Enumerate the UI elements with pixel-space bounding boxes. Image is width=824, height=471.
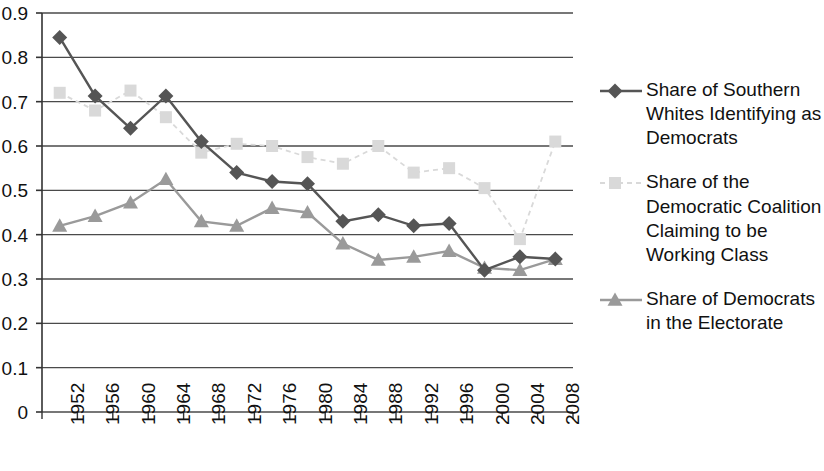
x-tick-label: 1992 — [422, 383, 441, 425]
triangle-data-point — [158, 172, 173, 185]
line-chart: 0.90.80.70.60.50.40.30.20.10 19521956196… — [0, 0, 824, 471]
square-data-point — [302, 151, 314, 163]
diamond-data-point — [371, 207, 386, 222]
x-tick-label: 1968 — [209, 383, 228, 425]
y-tick-label: 0.2 — [0, 314, 28, 333]
x-tick-label: 1956 — [103, 383, 122, 425]
y-tick-label: 0.4 — [0, 226, 28, 245]
square-data-point — [372, 140, 384, 152]
x-tick-label: 1984 — [351, 383, 370, 425]
x-tick-label: 1964 — [174, 383, 193, 425]
x-tick-label: 1996 — [457, 383, 476, 425]
x-tick-label: 2000 — [493, 383, 512, 425]
triangle-data-point — [442, 244, 457, 257]
square-data-point — [609, 177, 621, 189]
diamond-data-point — [406, 218, 421, 233]
square-data-point — [54, 87, 66, 99]
diamond-data-point — [608, 84, 623, 99]
square-data-point — [408, 167, 420, 179]
y-tick-label: 0.8 — [0, 48, 28, 67]
x-tick-label: 1952 — [68, 383, 87, 425]
diamond-marker-key — [598, 78, 644, 104]
triangle-data-point — [265, 201, 280, 214]
x-tick-label: 1980 — [316, 383, 335, 425]
square-data-point — [443, 162, 455, 174]
y-tick-label: 0.1 — [0, 359, 28, 378]
y-tick-label: 0.9 — [0, 4, 28, 23]
legend-entry: Share of Democrats in the Electorate — [598, 287, 824, 335]
chart-legend: Share of Southern Whites Identifying as … — [598, 78, 824, 355]
square-data-point — [231, 138, 243, 150]
legend-entry: Share of Southern Whites Identifying as … — [598, 78, 824, 150]
legend-label: Share of Southern Whites Identifying as … — [644, 78, 824, 150]
x-tick-label: 1960 — [139, 383, 158, 425]
triangle-marker-key — [598, 287, 644, 313]
square-data-point — [266, 140, 278, 152]
legend-label: Share of Democrats in the Electorate — [644, 287, 824, 335]
x-tick-label: 2004 — [528, 383, 547, 425]
y-tick-label: 0.6 — [0, 137, 28, 156]
x-tick-label: 1988 — [386, 383, 405, 425]
square-data-point — [514, 233, 526, 245]
y-tick-label: 0 — [0, 403, 28, 422]
square-data-point — [125, 85, 137, 97]
y-tick-label: 0.5 — [0, 181, 28, 200]
legend-label: Share of the Democratic Coalition Claimi… — [644, 170, 824, 267]
diamond-data-point — [265, 174, 280, 189]
legend-entry: Share of the Democratic Coalition Claimi… — [598, 170, 824, 267]
square-data-point — [337, 158, 349, 170]
square-data-point — [89, 105, 101, 117]
triangle-data-point — [123, 195, 138, 208]
square-marker-key — [598, 170, 644, 196]
square-data-point — [160, 111, 172, 123]
data-series — [54, 85, 562, 246]
y-tick-label: 0.7 — [0, 93, 28, 112]
x-tick-label: 1976 — [280, 383, 299, 425]
y-tick-label: 0.3 — [0, 270, 28, 289]
square-data-point — [549, 136, 561, 148]
square-data-point — [479, 182, 491, 194]
x-tick-label: 2008 — [563, 383, 582, 425]
diamond-data-point — [52, 30, 67, 45]
x-tick-label: 1972 — [245, 383, 264, 425]
diamond-data-point — [512, 249, 527, 264]
series-layer — [52, 30, 563, 278]
